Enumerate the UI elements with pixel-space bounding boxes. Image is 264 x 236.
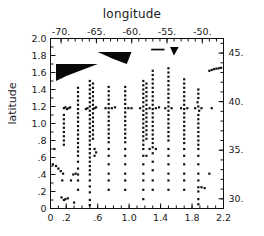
data-point [142,139,144,141]
data-point [197,173,199,175]
data-point [167,97,169,99]
left-tick-label: 2.0 [18,34,47,44]
data-point [89,97,91,99]
data-point [124,90,126,92]
data-point [211,69,213,71]
data-point [89,93,91,95]
data-point [183,148,185,150]
data-point [167,148,169,150]
data-point [145,82,147,84]
data-point [139,107,141,109]
data-point [89,127,91,129]
data-point [183,99,185,101]
data-point [92,116,94,118]
data-point [142,163,144,165]
data-point [63,114,65,116]
left-tick-label: 1.0 [18,119,47,129]
data-point [77,189,79,191]
data-point [124,103,126,105]
data-point [183,125,185,127]
data-point [152,104,154,106]
data-point [152,112,154,114]
data-point [124,94,126,96]
data-point [89,131,91,133]
data-point [142,88,144,90]
data-point [183,138,185,140]
data-point [62,173,64,175]
data-point [152,138,154,140]
data-point [108,99,110,101]
data-point [124,148,126,150]
data-point [89,161,91,163]
data-point [77,142,79,144]
data-point [152,95,154,97]
data-point [92,112,94,114]
data-point [208,70,210,72]
data-point [93,148,95,150]
data-point [108,116,110,118]
data-point [75,173,77,175]
data-point [108,141,110,143]
left-tick-label: .6 [18,153,47,163]
data-point [60,170,62,172]
data-point [197,190,199,192]
data-point [70,179,72,181]
data-point [72,173,74,175]
land-mask-east-bar [151,49,164,51]
data-point [145,104,147,106]
data-point [124,120,126,122]
data-point [89,105,91,107]
data-point [197,122,199,124]
data-point [108,94,110,96]
data-point [155,107,157,109]
data-point [167,163,169,165]
data-point [215,68,217,70]
data-point [197,198,199,200]
data-point [89,135,91,137]
data-point [197,186,199,188]
data-point [92,95,94,97]
data-point [108,86,110,88]
data-point [197,97,199,99]
bottom-tick-label: .2 [52,213,80,223]
data-point [197,139,199,141]
data-point [152,91,154,93]
data-point [152,133,154,135]
data-point [89,118,91,120]
data-point [124,124,126,126]
data-point [73,201,75,203]
data-point [145,91,147,93]
data-point [183,112,185,114]
data-point [152,82,154,84]
data-point [183,104,185,106]
data-point [183,82,185,84]
data-point [108,173,110,175]
data-point [63,144,65,146]
data-point [167,101,169,103]
data-point [196,101,198,103]
data-point [77,125,79,127]
data-point [77,129,79,131]
data-point [142,148,144,150]
data-point [89,152,91,154]
data-point [142,189,144,191]
scatter-plot-figure: longitude latitude 0.2.61.01.41.82.20.2.… [0,0,264,236]
data-point [127,107,129,109]
data-point [108,179,110,181]
data-point [142,84,144,86]
data-point [77,99,79,101]
data-point [152,121,154,123]
data-point [124,155,126,157]
data-point [167,88,169,90]
data-point [89,101,91,103]
data-point [77,138,79,140]
data-point [152,161,154,163]
data-point [171,107,173,109]
data-point [152,169,154,171]
data-point [61,179,63,181]
data-point [124,163,126,165]
data-point [108,137,110,139]
data-point [89,139,91,141]
data-point [124,111,126,113]
data-point [167,105,169,107]
